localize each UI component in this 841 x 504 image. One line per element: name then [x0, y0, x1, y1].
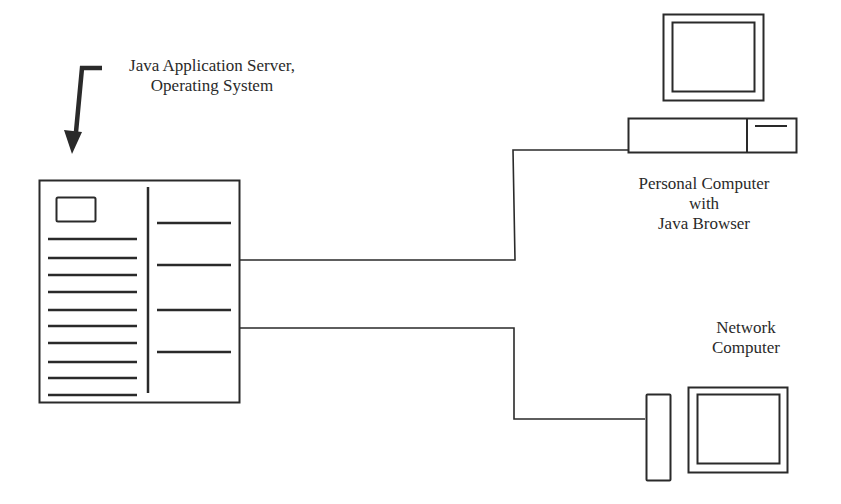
- server-label-line-1: Java Application Server,: [112, 56, 312, 76]
- pointer-arrow-icon: [64, 68, 102, 154]
- pc-label-line-3: Java Browser: [604, 214, 804, 234]
- server-label-line-2: Operating System: [112, 76, 312, 96]
- server-icon: [40, 181, 240, 403]
- connection-line-nc: [240, 328, 645, 419]
- personal-computer-icon: [629, 15, 797, 153]
- pc-label-line-2: with: [604, 194, 804, 214]
- server-label: Java Application Server, Operating Syste…: [112, 56, 312, 96]
- connection-line-pc: [240, 150, 628, 260]
- nc-label-line-1: Network: [676, 318, 816, 338]
- nc-label-line-2: Computer: [676, 338, 816, 358]
- personal-computer-label: Personal Computer with Java Browser: [604, 174, 804, 234]
- network-computer-icon: [647, 388, 788, 481]
- network-computer-label: Network Computer: [676, 318, 816, 358]
- pc-label-line-1: Personal Computer: [604, 174, 804, 194]
